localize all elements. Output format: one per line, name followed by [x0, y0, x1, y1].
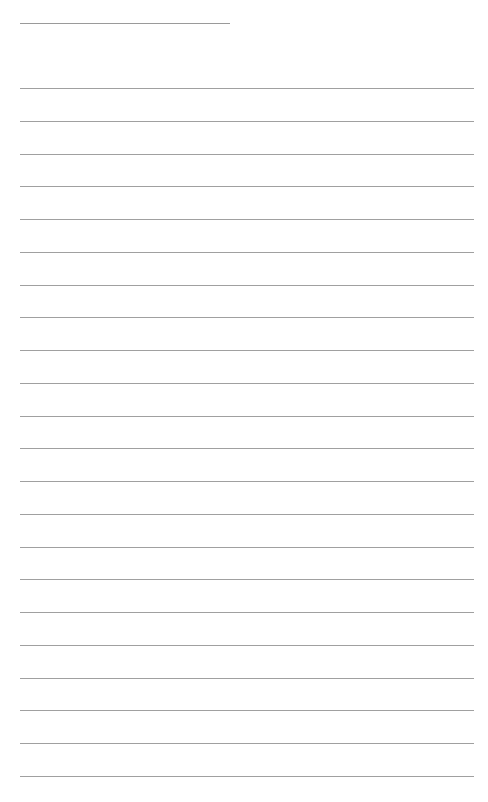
ruled-line	[20, 186, 474, 187]
ruled-line	[20, 448, 474, 449]
ruled-line	[20, 252, 474, 253]
ruled-line	[20, 121, 474, 122]
ruled-line	[20, 285, 474, 286]
ruled-line	[20, 514, 474, 515]
ruled-line	[20, 317, 474, 318]
ruled-line	[20, 776, 474, 777]
ruled-line	[20, 710, 474, 711]
ruled-line	[20, 612, 474, 613]
ruled-line	[20, 645, 474, 646]
ruled-line	[20, 743, 474, 744]
header-line	[20, 23, 230, 24]
lined-paper-page	[0, 0, 488, 802]
ruled-line	[20, 350, 474, 351]
ruled-line	[20, 547, 474, 548]
ruled-line	[20, 416, 474, 417]
ruled-line	[20, 383, 474, 384]
ruled-line	[20, 219, 474, 220]
ruled-line	[20, 678, 474, 679]
ruled-line	[20, 481, 474, 482]
ruled-line	[20, 88, 474, 89]
ruled-line	[20, 579, 474, 580]
ruled-line	[20, 154, 474, 155]
